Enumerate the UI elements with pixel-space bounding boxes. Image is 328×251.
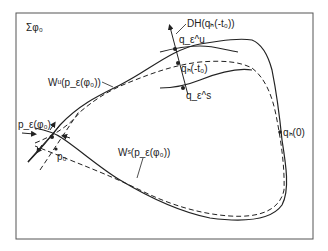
ws-leader-line [137,158,143,178]
q-eps-u-label: q_ε^u [179,34,205,45]
p0-label: p₀ [57,151,67,162]
p-eps-label: p_ε(φ₀) [18,119,51,130]
q-h-0-label: qₕ(0) [283,127,305,138]
q-eps-s-point [181,86,185,90]
q-eps-s-label: q_ε^s [186,90,211,101]
wu-leader-line [102,82,113,87]
dh-leader-line [176,24,186,34]
section-label: Σφ₀ [26,22,43,33]
inflow-arrow-icon [64,136,70,138]
q-h-minus-t0-label: qₕ(-t₀) [181,63,207,74]
q-h-minus-t0-point [176,61,180,65]
q-eps-u-curve [160,46,238,52]
w-stable-label: Wˢ(p_ε(φ₀)) [118,147,170,158]
dh-label: DH(qₕ(-t₀)) [187,18,235,29]
manifold-diagram: Σφ₀ DH(qₕ(-t₀)) q_ε^u qₕ(-t₀) q_ε^s Wᵘ(p… [0,0,328,251]
w-unstable-label: Wᵘ(p_ε(φ₀)) [48,77,101,88]
p-eps-point [50,135,54,139]
q-eps-u-point [173,47,177,51]
inflow-arrow-icon [22,133,34,134]
section-frame [16,13,313,239]
q-h-0-point [278,130,282,134]
